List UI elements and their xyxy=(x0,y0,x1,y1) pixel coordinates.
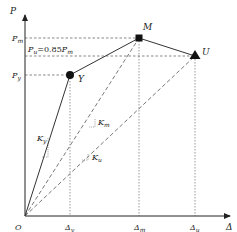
point-m-marker xyxy=(136,35,143,42)
skeleton-curve xyxy=(25,38,195,216)
y-axis-label: P xyxy=(9,6,17,16)
point-u-label: U xyxy=(202,47,210,57)
x-axis-label: Δ xyxy=(225,222,233,232)
km-label: Km xyxy=(97,118,110,128)
secant-lines xyxy=(25,38,195,216)
slope-triangles xyxy=(42,119,95,160)
load-displacement-diagram: P Δ O Pm Py Pu=0.85Pm Δy Δm Δu Y M U Ky … xyxy=(0,0,237,232)
dm-label: Δm xyxy=(133,223,146,232)
point-m-label: M xyxy=(142,22,153,32)
point-y-label: Y xyxy=(78,74,85,84)
ku-label: Ku xyxy=(91,153,102,163)
pu-annotation: Pu=0.85Pm xyxy=(27,45,73,55)
du-label: Δu xyxy=(189,223,200,232)
ky-label: Ky xyxy=(36,134,47,145)
dy-label: Δy xyxy=(64,223,75,232)
origin-label: O xyxy=(15,223,22,232)
pm-label: Pm xyxy=(11,34,23,44)
point-y-marker xyxy=(66,71,74,79)
horizontal-guides xyxy=(25,38,195,75)
diagram-canvas: P Δ O Pm Py Pu=0.85Pm Δy Δm Δu Y M U Ky … xyxy=(0,0,237,232)
py-label: Py xyxy=(11,71,21,82)
